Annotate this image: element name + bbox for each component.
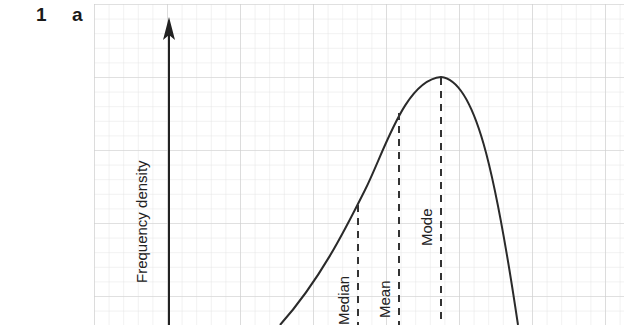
mode-label: Mode xyxy=(418,208,435,246)
mean-label: Mean xyxy=(376,280,393,318)
y-axis-label: Frequency density xyxy=(133,160,150,283)
median-label: Median xyxy=(335,276,352,325)
distribution-graph: Frequency density Median Mean Mode xyxy=(0,0,624,325)
